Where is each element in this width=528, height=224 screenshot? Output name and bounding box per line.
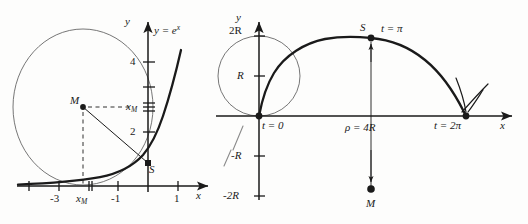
left-y-tick-2: 2 [130, 126, 136, 137]
point-m-right [367, 185, 375, 193]
label-t-equals-0: t = 0 [262, 120, 283, 131]
ym-subscript: M [131, 105, 137, 114]
left-x-tick-neg1: -1 [111, 193, 120, 204]
left-x-tick-pos1: 1 [174, 193, 180, 204]
left-y-tick-ym: xM [126, 101, 137, 113]
left-y-axis-label: y [125, 16, 130, 27]
xm-subscript: M [81, 197, 87, 206]
figure-vector-layer [0, 0, 528, 224]
left-x-axis-label: x [196, 190, 201, 201]
right-panel-group [216, 22, 512, 200]
curve-label-text: y = e [154, 24, 177, 36]
figure-canvas: y x y = ex 4 2 xM -3 -1 1 xM M S y x 2R … [0, 0, 528, 224]
left-panel-group [13, 22, 208, 192]
point-s-right [368, 35, 375, 42]
curvature-radius-label: ρ = 4R [345, 122, 375, 133]
point-label-s-right: S [360, 22, 366, 33]
point-label-s-left: S [149, 164, 155, 175]
point-t2pi [463, 113, 470, 120]
left-x-tick-neg3: -3 [50, 193, 59, 204]
point-m-left [80, 104, 86, 110]
exponential-curve [18, 50, 181, 185]
right-y-tick-2r: 2R [229, 25, 242, 36]
point-label-m-left: M [70, 95, 79, 106]
left-y-tick-4: 4 [130, 56, 136, 67]
right-y-tick-neg-2r: -2R [223, 190, 239, 201]
exponential-curve-label: y = ex [154, 24, 180, 36]
radius-segment-ms [83, 107, 148, 163]
right-y-axis-label: y [236, 12, 241, 23]
curve-label-exponent: x [177, 23, 180, 32]
point-label-m-right: M [366, 198, 375, 209]
left-y-ticks [143, 62, 155, 132]
label-t-equals-pi: t = π [381, 23, 403, 34]
right-y-tick-r: R [237, 70, 244, 81]
label-t-equals-2pi: t = 2π [434, 120, 461, 131]
left-x-tick-xm: xM [76, 193, 87, 205]
right-y-tick-neg-r: -R [231, 150, 241, 161]
cycloid-curve [259, 37, 467, 116]
right-x-axis-label: x [500, 120, 505, 131]
